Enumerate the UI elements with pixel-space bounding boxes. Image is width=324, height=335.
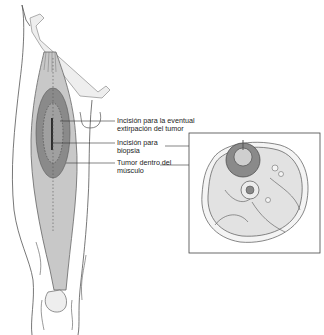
leg-outline-left [12, 5, 33, 335]
label-excision: Incisión para la eventual extirpación de… [117, 117, 195, 133]
patella [45, 290, 66, 312]
label-tumor: Tumor dentro del músculo [117, 159, 171, 175]
cross-section [202, 140, 308, 242]
leg-outline-right [78, 100, 92, 335]
label-biopsy: Incisión para biopsia [117, 139, 158, 155]
